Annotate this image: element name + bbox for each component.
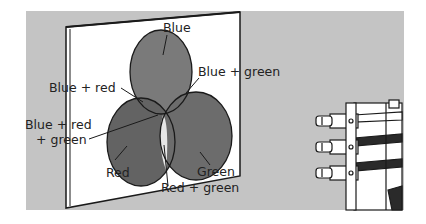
label-blue: Blue [163, 20, 191, 35]
label-blue-red: Blue + red [49, 80, 116, 95]
label-blue-red-green-line1: Blue + red [25, 117, 92, 132]
label-blue-green: Blue + green [198, 64, 280, 79]
label-green: Green [197, 164, 235, 179]
label-red: Red [106, 165, 130, 180]
label-blue-red-green-line2: + green [36, 132, 87, 147]
color-mixing-diagram: Blue Blue + green Blue + red Blue + red … [0, 0, 426, 224]
label-red-green: Red + green [161, 180, 239, 195]
